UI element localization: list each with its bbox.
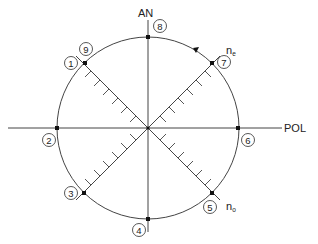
position-label-5: 5: [204, 201, 217, 214]
analyzer-label: AN: [138, 7, 153, 19]
position-label-9: 9: [80, 43, 93, 56]
svg-text:9: 9: [83, 44, 88, 55]
position-label-7: 7: [218, 56, 231, 69]
ne-label: ne: [226, 44, 236, 57]
svg-text:8: 8: [157, 21, 162, 32]
position-label-3: 3: [65, 187, 78, 200]
position-label-8: 8: [154, 20, 167, 33]
svg-text:6: 6: [245, 135, 250, 146]
svg-text:7: 7: [221, 57, 226, 68]
polarization-diagram: AN POL ne no 1 9 8 7 2 6 3 5 4: [0, 0, 318, 244]
position-label-4: 4: [133, 224, 146, 237]
svg-text:4: 4: [136, 225, 141, 236]
position-label-2: 2: [43, 134, 56, 147]
svg-text:1: 1: [68, 58, 73, 69]
svg-text:3: 3: [68, 188, 73, 199]
position-label-6: 6: [242, 134, 255, 147]
no-label: no: [226, 200, 236, 213]
polarizer-label: POL: [284, 122, 306, 134]
svg-text:5: 5: [207, 202, 212, 213]
svg-text:2: 2: [46, 135, 51, 146]
position-label-1: 1: [65, 57, 78, 70]
